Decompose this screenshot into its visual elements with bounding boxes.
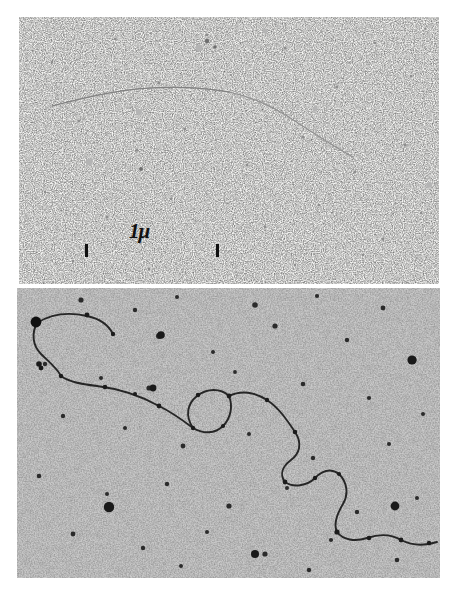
dna-end-blob — [31, 317, 42, 328]
scale-bar-top-cap-left — [85, 244, 88, 257]
micrograph-panel-top: 1μ — [19, 17, 439, 284]
micrograph-figure: 1μ — [0, 0, 453, 593]
scale-bar-top-label: 1μ — [129, 219, 149, 244]
micrograph-panel-bottom: 1μ — [17, 288, 440, 578]
dna-filament-top — [19, 17, 439, 284]
dna-molecule-bottom — [17, 288, 440, 578]
scale-bar-top-cap-right — [216, 244, 219, 257]
